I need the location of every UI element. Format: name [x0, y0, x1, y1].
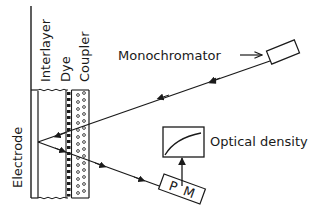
- interlayer-label: Interlayer: [38, 18, 53, 82]
- dye-layer: [66, 90, 72, 198]
- optical-density-label: Optical density: [210, 134, 308, 149]
- interlayer-region: [31, 89, 68, 199]
- monochromator-box: [266, 40, 299, 64]
- dye-label: Dye: [58, 56, 73, 82]
- electrode: [31, 6, 38, 198]
- reflected-beam: [38, 142, 162, 187]
- coupler-layer: [72, 90, 90, 198]
- monochromator-label: Monochromator: [118, 48, 221, 63]
- electrode-label: Electrode: [10, 127, 25, 188]
- coupler-label: Coupler: [77, 31, 92, 82]
- optical-density-plot: [163, 127, 204, 157]
- spectroelectrochemical-setup-diagram: Interlayer Dye Coupler Electrode Monochr…: [0, 0, 333, 217]
